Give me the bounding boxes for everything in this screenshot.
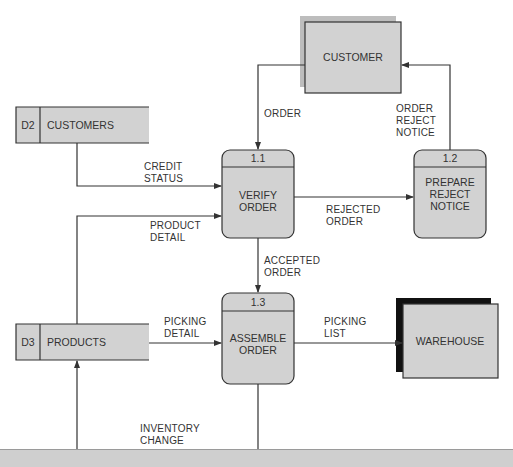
process-label-line2: ORDER (239, 344, 277, 356)
process-label-line1: PREPARE (425, 176, 474, 188)
flow-label-picking-detail: PICKING DETAIL (164, 316, 207, 340)
external-entity-customer[interactable]: CUSTOMER (300, 16, 401, 93)
process-label-line2: REJECT (430, 188, 471, 200)
entity-label: CUSTOMER (323, 51, 383, 63)
store-id: D2 (21, 119, 35, 131)
data-store-customers[interactable]: D2 CUSTOMERS (16, 107, 149, 143)
external-entity-warehouse[interactable]: WAREHOUSE (396, 298, 498, 378)
flow-label-order: ORDER (264, 108, 301, 120)
flow-label-order-reject-notice: ORDER REJECT NOTICE (396, 103, 436, 139)
store-id: D3 (21, 336, 35, 348)
flow-label-product-detail: PRODUCT DETAIL (150, 220, 201, 244)
process-1-2-prepare-reject-notice[interactable]: 1.2 PREPARE REJECT NOTICE (414, 150, 486, 238)
flow-order[interactable] (258, 65, 305, 149)
process-1-1-verify-order[interactable]: 1.1 VERIFY ORDER (222, 150, 294, 238)
process-number: 1.1 (251, 152, 266, 164)
process-label-line1: ASSEMBLE (230, 332, 287, 344)
process-label-line1: VERIFY (239, 189, 277, 201)
process-label-line3: NOTICE (430, 200, 470, 212)
store-label: CUSTOMERS (47, 119, 114, 131)
process-number: 1.3 (251, 296, 266, 308)
data-store-products[interactable]: D3 PRODUCTS (16, 324, 149, 360)
process-1-3-assemble-order[interactable]: 1.3 ASSEMBLE ORDER (222, 293, 294, 384)
process-label-line2: ORDER (239, 201, 277, 213)
flow-label-inventory-change: INVENTORY CHANGE (140, 423, 200, 447)
store-label: PRODUCTS (47, 336, 106, 348)
flow-label-picking-list: PICKING LIST (324, 316, 367, 340)
entity-label: WAREHOUSE (416, 335, 484, 347)
flow-label-rejected-order: REJECTED ORDER (326, 204, 380, 228)
bottom-band (0, 449, 513, 467)
process-number: 1.2 (443, 152, 458, 164)
flow-label-accepted-order: ACCEPTED ORDER (264, 255, 320, 279)
flow-label-credit-status: CREDIT STATUS (144, 161, 183, 185)
